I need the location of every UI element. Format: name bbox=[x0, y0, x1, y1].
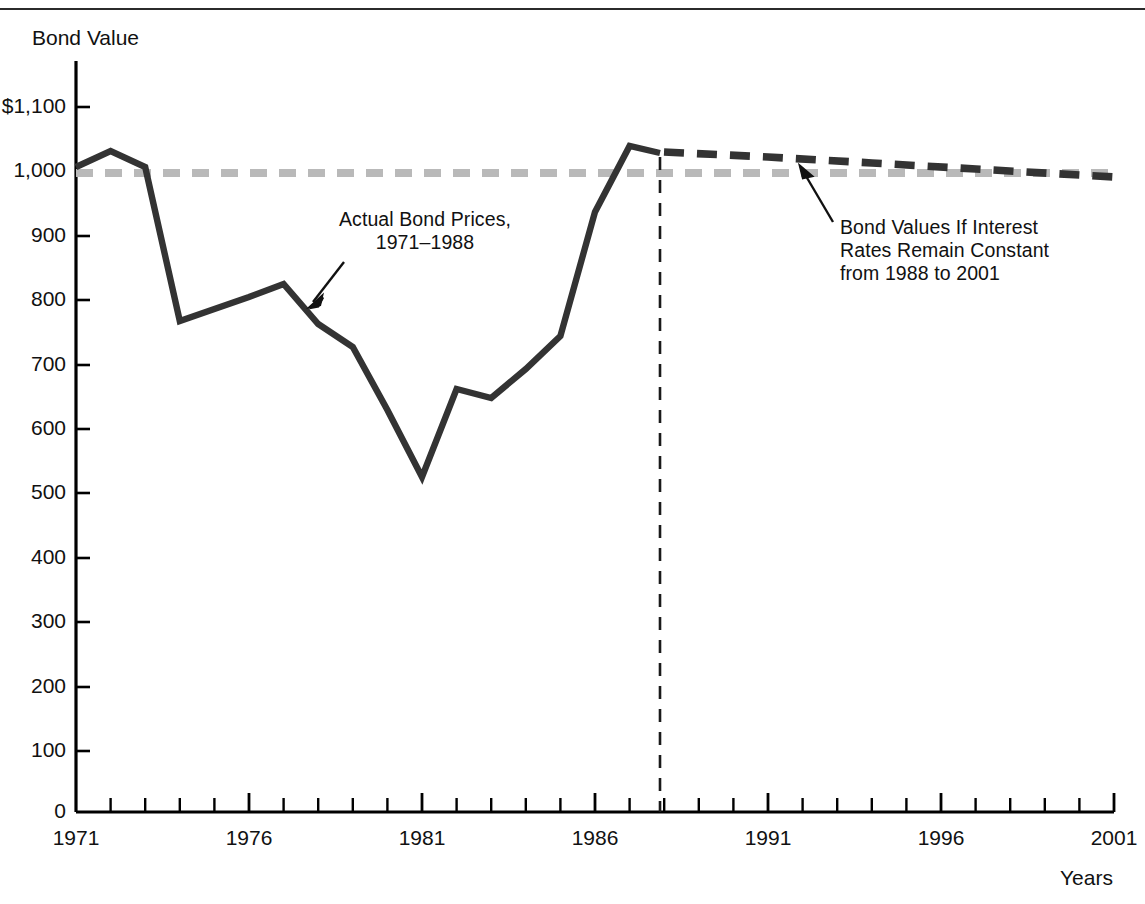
x-tick-label-1971: 1971 bbox=[40, 826, 112, 851]
x-tick-label-1991: 1991 bbox=[732, 826, 804, 851]
x-axis-title: Years bbox=[1060, 866, 1113, 891]
x-axis-major-ticks bbox=[249, 793, 1114, 812]
y-tick-label-500: 500 bbox=[0, 480, 66, 505]
chart-plot-area bbox=[0, 0, 1145, 904]
y-tick-label-800: 800 bbox=[0, 287, 66, 312]
y-tick-label-0: 0 bbox=[0, 799, 66, 824]
y-tick-label-1100: $1,100 bbox=[0, 94, 66, 119]
y-axis-title: Bond Value bbox=[32, 26, 139, 51]
actual-bond-prices-line bbox=[76, 146, 660, 477]
annotation-projection-line1: Bond Values If Interest bbox=[840, 216, 1038, 239]
bond-value-chart-figure: Bond Value $1,100 1,000 900 800 700 600 … bbox=[0, 0, 1145, 904]
annotation-arrow-actual bbox=[310, 262, 345, 308]
y-axis-ticks bbox=[76, 107, 90, 751]
y-tick-label-700: 700 bbox=[0, 352, 66, 377]
y-tick-label-300: 300 bbox=[0, 609, 66, 634]
x-tick-label-1981: 1981 bbox=[386, 826, 458, 851]
y-tick-label-400: 400 bbox=[0, 545, 66, 570]
x-tick-label-1976: 1976 bbox=[213, 826, 285, 851]
y-tick-label-200: 200 bbox=[0, 674, 66, 699]
y-tick-label-100: 100 bbox=[0, 738, 66, 763]
y-tick-label-600: 600 bbox=[0, 416, 66, 441]
annotation-actual-bond-prices-line1: Actual Bond Prices, bbox=[310, 208, 540, 231]
annotation-projection-line3: from 1988 to 2001 bbox=[840, 262, 1000, 285]
annotation-projection-line2: Rates Remain Constant bbox=[840, 239, 1049, 262]
x-tick-label-1986: 1986 bbox=[559, 826, 631, 851]
annotation-actual-bond-prices-line2: 1971–1988 bbox=[310, 231, 540, 254]
x-tick-label-1996: 1996 bbox=[905, 826, 977, 851]
y-tick-label-1000: 1,000 bbox=[0, 158, 66, 183]
y-tick-label-900: 900 bbox=[0, 223, 66, 248]
x-tick-label-2001: 2001 bbox=[1078, 826, 1145, 851]
